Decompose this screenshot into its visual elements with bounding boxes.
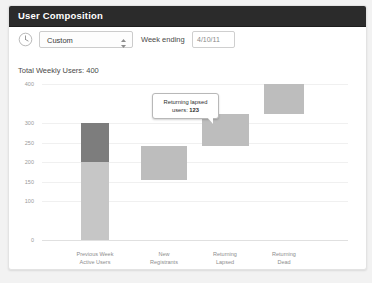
panel-toolbar: Custom Week ending 4/10/11 — [9, 26, 366, 56]
y-tick-label: 300 — [12, 120, 34, 126]
week-ending-date-input[interactable]: 4/10/11 — [192, 31, 235, 48]
period-select-value: Custom — [47, 36, 73, 45]
clock-icon — [18, 32, 33, 47]
total-weekly-users-text: Total Weekly Users: 400 — [18, 66, 99, 75]
chart-bar-segment[interactable] — [141, 146, 187, 179]
stepper-updown-icon[interactable] — [120, 35, 127, 46]
week-ending-date-value: 4/10/11 — [197, 36, 220, 43]
chart-bar-segment[interactable] — [81, 123, 109, 162]
user-composition-chart: 0100150200250300400 Previous Week Active… — [9, 78, 366, 268]
y-tick-label: 200 — [12, 159, 34, 165]
page-root: User Composition Custom — [0, 0, 372, 283]
chart-tooltip: Returning lapsedusers: 123 — [152, 93, 219, 119]
x-tick-label: Previous Week Active Users — [59, 251, 131, 266]
y-tick-label: 0 — [12, 237, 34, 243]
panel-title: User Composition — [18, 10, 103, 21]
chart-tooltip-value: 123 — [189, 107, 199, 113]
x-tick-label: Returning Dead — [248, 251, 320, 266]
y-tick-label: 100 — [12, 198, 34, 204]
chart-tooltip-text: Returning lapsedusers: 123 — [156, 98, 215, 114]
y-tick-label: 400 — [12, 81, 34, 87]
y-tick-label: 150 — [12, 179, 34, 185]
chart-axis-line — [42, 240, 348, 241]
panel-titlebar: User Composition — [9, 6, 366, 27]
period-select[interactable]: Custom — [39, 31, 133, 48]
week-ending-label: Week ending — [141, 35, 185, 44]
chart-bar-segment[interactable] — [264, 84, 304, 114]
user-composition-panel: User Composition Custom — [8, 5, 367, 270]
chart-tooltip-tail — [207, 117, 213, 124]
y-tick-label: 250 — [12, 140, 34, 146]
chart-bar-segment[interactable] — [81, 162, 109, 240]
